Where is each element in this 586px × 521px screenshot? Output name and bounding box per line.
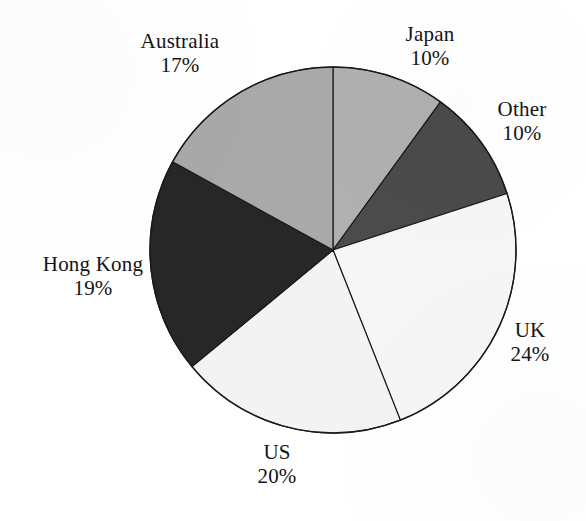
pie-label-uk: UK 24% [490,318,570,367]
pie-chart: Australia 17% Japan 10% Other 10% UK 24%… [0,0,586,521]
pie-label-uk-name: UK [490,318,570,342]
pie-label-australia-name: Australia [110,29,250,53]
pie-label-australia: Australia 17% [110,29,250,78]
pie-label-other-name: Other [472,97,572,121]
pie-label-hong-kong: Hong Kong 19% [18,252,168,301]
pie-label-hong-kong-name: Hong Kong [18,252,168,276]
pie-label-other-value: 10% [472,121,572,145]
pie-label-australia-value: 17% [110,53,250,77]
pie-label-japan-value: 10% [370,46,490,70]
pie-label-us-value: 20% [232,464,322,488]
pie-label-us: US 20% [232,440,322,489]
pie-label-japan: Japan 10% [370,22,490,71]
pie-label-uk-value: 24% [490,342,570,366]
pie-label-hong-kong-value: 19% [18,276,168,300]
pie-label-japan-name: Japan [370,22,490,46]
pie-label-other: Other 10% [472,97,572,146]
pie-label-us-name: US [232,440,322,464]
pie-slice-group [150,67,516,433]
